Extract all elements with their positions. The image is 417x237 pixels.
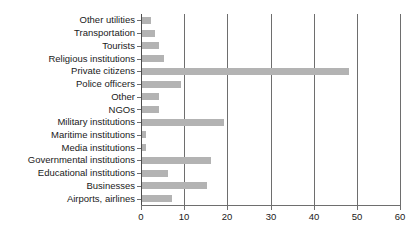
bar xyxy=(142,55,164,62)
x-tick-label-40: 40 xyxy=(309,211,320,223)
y-axis-label: Airports, airlines xyxy=(67,193,135,204)
bar xyxy=(142,30,155,37)
bar xyxy=(142,93,159,100)
y-axis-label: Maritime institutions xyxy=(51,129,135,140)
gridline-40 xyxy=(314,14,315,205)
x-tick-50 xyxy=(357,206,358,210)
y-tick xyxy=(137,199,141,200)
bar xyxy=(142,81,181,88)
bar xyxy=(142,42,159,49)
y-axis-label: Governmental institutions xyxy=(28,154,135,165)
x-tick-label-30: 30 xyxy=(266,211,277,223)
y-tick xyxy=(137,173,141,174)
y-tick xyxy=(137,160,141,161)
y-axis-label: Media institutions xyxy=(62,142,135,153)
bar xyxy=(142,182,207,189)
bar xyxy=(142,106,159,113)
bar xyxy=(142,119,224,126)
y-axis-label: Police officers xyxy=(76,78,135,89)
y-tick xyxy=(137,59,141,60)
bar xyxy=(142,157,211,164)
y-tick xyxy=(137,84,141,85)
y-tick xyxy=(137,33,141,34)
bar xyxy=(142,144,146,151)
y-tick xyxy=(137,135,141,136)
x-axis-tick-labels: 0102030405060 xyxy=(141,211,401,225)
y-axis-label: Educational institutions xyxy=(38,167,135,178)
x-tick-label-20: 20 xyxy=(222,211,233,223)
y-axis-label: Military institutions xyxy=(57,116,135,127)
y-axis-category-labels: Other utilitiesTransportationTouristsRel… xyxy=(0,14,138,205)
y-axis-label: Religious institutions xyxy=(48,53,135,64)
x-tick-30 xyxy=(271,206,272,210)
bar xyxy=(142,195,172,202)
y-axis-label: Transportation xyxy=(74,27,135,38)
x-tick-60 xyxy=(400,206,401,210)
y-tick xyxy=(137,20,141,21)
x-tick-20 xyxy=(227,206,228,210)
gridline-50 xyxy=(357,14,358,205)
x-tick-label-60: 60 xyxy=(395,211,406,223)
y-tick xyxy=(137,109,141,110)
plot-area xyxy=(141,14,400,205)
x-tick-0 xyxy=(141,206,142,210)
y-axis-label: Tourists xyxy=(102,40,135,51)
bar xyxy=(142,17,151,24)
y-tick xyxy=(137,71,141,72)
gridline-30 xyxy=(271,14,272,205)
x-tick-label-50: 50 xyxy=(352,211,363,223)
y-tick xyxy=(137,186,141,187)
y-axis-label: Businesses xyxy=(86,180,135,191)
gridline-10 xyxy=(184,14,185,205)
x-tick-label-10: 10 xyxy=(179,211,190,223)
y-tick xyxy=(137,122,141,123)
gridline-60 xyxy=(400,14,401,205)
y-axis-label: Other utilities xyxy=(80,14,135,25)
bar xyxy=(142,131,146,138)
gridline-20 xyxy=(227,14,228,205)
x-tick-40 xyxy=(314,206,315,210)
horizontal-bar-chart: Other utilitiesTransportationTouristsRel… xyxy=(0,0,417,237)
y-tick xyxy=(137,97,141,98)
y-axis-label: NGOs xyxy=(109,104,135,115)
x-tick-label-0: 0 xyxy=(138,211,143,223)
y-tick xyxy=(137,46,141,47)
bar xyxy=(142,68,349,75)
y-axis-label: Other xyxy=(111,91,135,102)
y-tick xyxy=(137,148,141,149)
x-tick-10 xyxy=(184,206,185,210)
y-axis-label: Private citizens xyxy=(71,65,135,76)
bar xyxy=(142,170,168,177)
